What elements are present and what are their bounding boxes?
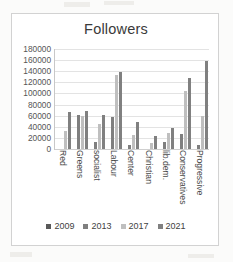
bar-group [55,49,72,149]
legend-swatch-icon [121,224,126,229]
scan-artifact [64,2,90,7]
y-axis-tick-label: 100000 [23,89,51,97]
legend-item[interactable]: 2021 [158,222,186,231]
legend-item[interactable]: 2009 [46,222,74,231]
y-axis-tick-label: 0 [46,145,51,153]
legend-item[interactable]: 2013 [83,222,111,231]
scan-artifact [104,1,134,5]
bar [128,145,131,149]
chart-legend: 2009201320172021 [12,222,220,231]
scan-artifact [10,252,32,257]
legend-label: 2009 [54,222,74,231]
bar [64,131,67,149]
bar-series-layer [55,49,209,149]
bar [77,115,80,149]
x-axis-label: Progressive [195,150,204,195]
legend-swatch-icon [158,224,163,229]
x-axis-label: Center [127,150,136,176]
bar [115,75,118,149]
y-axis-tick-label: 60000 [28,112,51,120]
legend-swatch-icon [46,224,51,229]
legend-label: 2013 [91,222,111,231]
bar [81,116,84,149]
legend-label: 2021 [166,222,186,231]
bar [167,133,170,149]
bar [85,111,88,149]
bar [180,134,183,149]
scan-artifact [188,254,214,258]
bar [136,122,139,149]
x-axis-label: Greens [75,150,84,178]
bar [197,145,200,149]
y-axis-tick-label: 80000 [28,100,51,108]
legend-label: 2017 [129,222,149,231]
scanned-page: Followers 180000160000140000120000100000… [0,0,233,262]
x-axis-category-labels: RedGreenssocialistLabourCenterChristianl… [55,150,209,212]
bar [184,91,187,149]
bar [205,61,208,149]
x-axis-label: lib.dem. [161,150,170,180]
bar [119,72,122,149]
bar [154,136,157,149]
bar [132,135,135,149]
y-axis-tick-label: 20000 [28,134,51,142]
bar [201,116,204,149]
x-axis-label: Labour [110,150,119,177]
bar-group [175,49,192,149]
x-axis-label: Christian [144,150,153,184]
bar-group [192,49,209,149]
legend-swatch-icon [83,224,88,229]
bar [102,115,105,149]
bar-group [158,49,175,149]
bar [98,124,101,149]
legend-item[interactable]: 2017 [121,222,149,231]
bar-group [123,49,140,149]
y-axis-tick-label: 120000 [23,78,51,86]
chart-title: Followers [12,21,220,37]
plot-area [55,49,209,149]
bar [150,143,153,149]
x-axis-label: socialist [93,150,102,181]
bar-group [141,49,158,149]
bar [188,78,191,149]
chart-container: Followers 180000160000140000120000100000… [11,13,219,246]
bar [163,142,166,149]
y-axis-tick-label: 160000 [23,56,51,64]
bar [94,142,97,149]
bar-group [106,49,123,149]
y-axis-tick-labels: 1800001600001400001200001000008000060000… [12,49,53,149]
bar [111,117,114,149]
bar-group [72,49,89,149]
x-axis-label: Conservatives [178,150,187,204]
bar-group [89,49,106,149]
y-axis-tick-label: 140000 [23,67,51,75]
y-axis-tick-label: 180000 [23,45,51,53]
bar [68,112,71,149]
x-axis-label: Red [58,150,67,166]
bar [171,128,174,149]
y-axis-tick-label: 40000 [28,123,51,131]
